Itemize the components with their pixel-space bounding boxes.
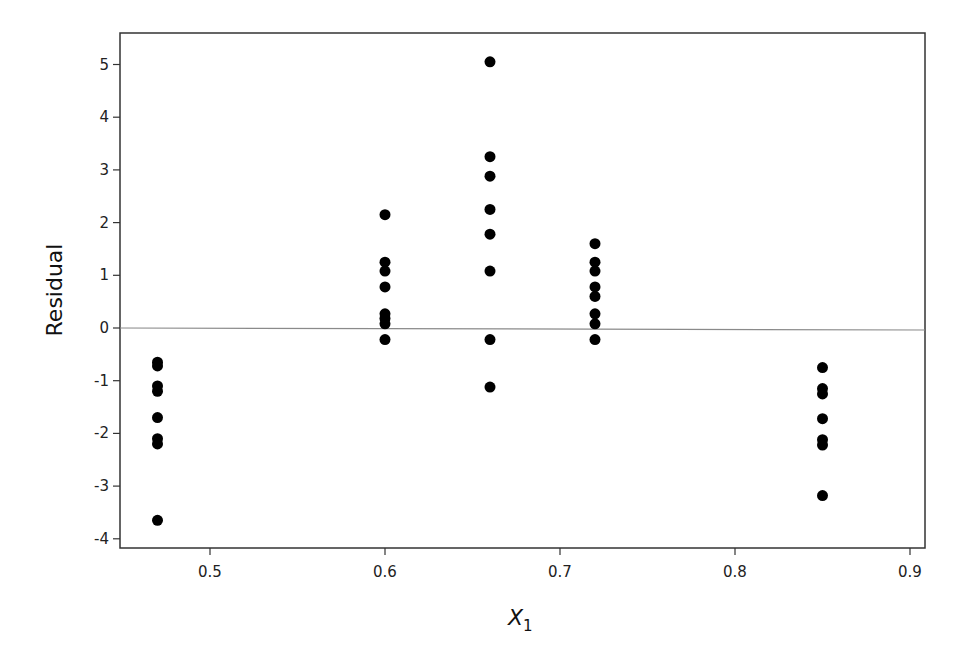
data-point	[485, 382, 496, 393]
data-point	[485, 171, 496, 182]
residual-scatter-chart: 0.50.60.70.80.9 -4-3-2-1012345 Residual …	[0, 0, 963, 664]
data-point	[485, 266, 496, 277]
x-axis-title: X1	[507, 605, 533, 635]
data-point	[380, 266, 391, 277]
y-tick-label: 2	[99, 214, 109, 232]
x-axis-title-subscript: 1	[523, 617, 533, 635]
data-point	[590, 281, 601, 292]
y-tick-label: 0	[99, 319, 109, 337]
y-tick-label: -1	[94, 372, 109, 390]
data-point	[817, 413, 828, 424]
x-tick-label: 0.6	[373, 563, 397, 581]
data-point	[380, 334, 391, 345]
y-tick-label: 5	[99, 56, 109, 74]
x-tick-label: 0.9	[898, 563, 922, 581]
x-tick-label: 0.7	[548, 563, 572, 581]
data-point	[817, 490, 828, 501]
x-tick-label: 0.5	[198, 563, 222, 581]
y-tick-label: -3	[94, 477, 109, 495]
data-point	[380, 209, 391, 220]
data-point	[817, 362, 828, 373]
data-point	[152, 360, 163, 371]
data-point	[590, 334, 601, 345]
data-point	[590, 238, 601, 249]
y-tick-label: 3	[99, 161, 109, 179]
data-point	[380, 318, 391, 329]
data-point	[152, 412, 163, 423]
y-tick-label: -2	[94, 424, 109, 442]
data-point	[590, 266, 601, 277]
plot-frame	[120, 33, 925, 548]
data-point	[485, 204, 496, 215]
x-axis-title-main: X	[507, 605, 524, 630]
data-point	[485, 56, 496, 67]
data-point	[590, 291, 601, 302]
data-point	[485, 151, 496, 162]
data-point	[485, 229, 496, 240]
y-tick-label: 1	[99, 266, 109, 284]
data-point	[817, 388, 828, 399]
data-point	[152, 438, 163, 449]
x-axis-ticks: 0.50.60.70.80.9	[198, 548, 922, 581]
y-tick-label: 4	[99, 108, 109, 126]
y-axis-title: Residual	[42, 244, 67, 337]
data-point	[590, 318, 601, 329]
data-point	[380, 281, 391, 292]
data-point	[485, 334, 496, 345]
y-tick-label: -4	[94, 530, 109, 548]
data-point	[152, 386, 163, 397]
data-point	[817, 439, 828, 450]
x-tick-label: 0.8	[723, 563, 747, 581]
data-point	[590, 308, 601, 319]
y-axis-ticks: -4-3-2-1012345	[94, 56, 120, 548]
data-point	[152, 515, 163, 526]
